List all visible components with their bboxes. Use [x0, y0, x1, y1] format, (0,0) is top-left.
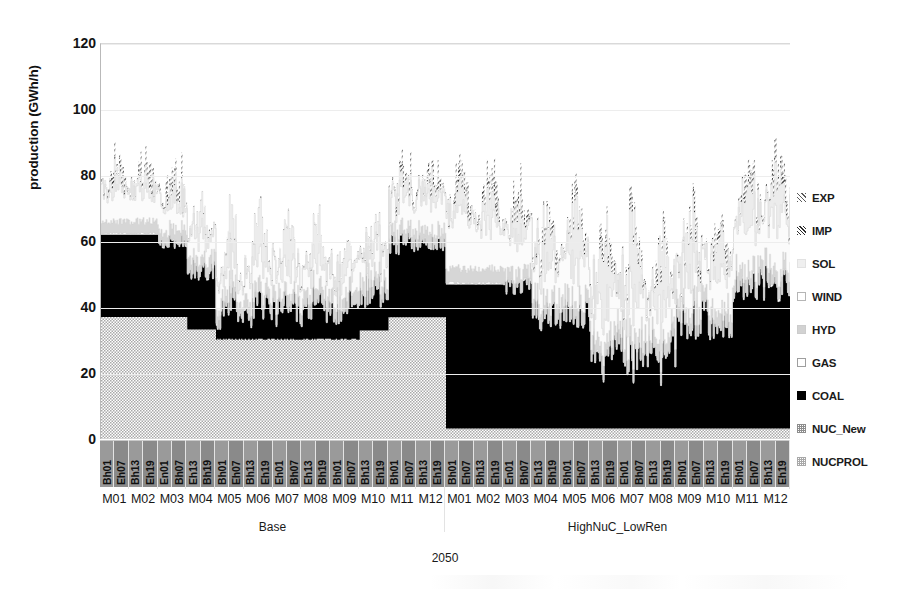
hour-tick-label: Bh13 [474, 460, 486, 485]
month-label-1-M01: M01 [445, 489, 474, 511]
hour-tick-label: Bh01 [733, 460, 745, 485]
hour-tick-0: Bh01 [100, 441, 114, 487]
legend-item-nucprol[interactable]: NUCPROL [797, 445, 897, 478]
hour-tick-25: Eh07 [459, 441, 473, 487]
hour-tick-21: Eh07 [402, 441, 416, 487]
legend-swatch-exp-icon [797, 193, 806, 202]
hour-tick-2: Bh13 [129, 441, 143, 487]
hour-tick-6: Eh13 [186, 441, 200, 487]
hour-tick-label: Bh01 [676, 460, 688, 485]
hour-tick-label: Bh01 [331, 460, 343, 485]
hour-tick-13: Bh07 [287, 441, 301, 487]
hour-tick-label: Bh13 [704, 460, 716, 485]
hour-tick-38: Eh13 [646, 441, 660, 487]
hour-tick-label: Eh07 [345, 461, 357, 485]
hour-tick-label: Bh19 [201, 460, 213, 485]
hour-tick-32: Bh01 [560, 441, 574, 487]
legend-item-wind[interactable]: WIND [797, 280, 897, 313]
hour-tick-label: Eh13 [187, 461, 199, 485]
hour-tick-3: Eh19 [143, 441, 157, 487]
gridline-80 [101, 176, 790, 177]
legend-label: NUC_New [812, 423, 866, 435]
hour-tick-label: Bh01 [388, 460, 400, 485]
hour-tick-label: Eh13 [532, 461, 544, 485]
hour-tick-17: Eh07 [344, 441, 358, 487]
month-label-1-M12: M12 [761, 489, 790, 511]
hour-tick-10: Bh13 [244, 441, 258, 487]
legend-label: IMP [812, 225, 832, 237]
hour-tick-26: Bh13 [474, 441, 488, 487]
y-tick-60: 60 [52, 234, 96, 248]
hour-tick-label: Eh19 [431, 461, 443, 485]
hour-tick-label: Eh19 [259, 461, 271, 485]
hour-tick-label: Bh13 [359, 460, 371, 485]
hour-tick-label: Bh13 [417, 460, 429, 485]
hour-tick-label: Bh01 [216, 460, 228, 485]
y-tick-80: 80 [52, 168, 96, 182]
hour-tick-label: Eh19 [719, 461, 731, 485]
hour-tick-1: Eh07 [114, 441, 128, 487]
legend-item-exp[interactable]: EXP [797, 181, 897, 214]
hour-tick-label: Eh07 [115, 461, 127, 485]
legend-swatch-gas-icon [797, 358, 806, 367]
hour-tick-label: Bh07 [288, 460, 300, 485]
legend-item-imp[interactable]: IMP [797, 214, 897, 247]
hour-tick-7: Bh19 [201, 441, 215, 487]
hour-tick-15: Bh19 [316, 441, 330, 487]
chart-plot-area [100, 43, 790, 439]
hour-tick-45: Eh07 [747, 441, 761, 487]
hour-tick-43: Eh19 [718, 441, 732, 487]
month-label-1-M02: M02 [474, 489, 503, 511]
month-label-1-M04: M04 [531, 489, 560, 511]
scenario-label-0: Base [100, 520, 445, 546]
hour-tick-label: Eh19 [144, 461, 156, 485]
y-tick-0: 0 [52, 432, 96, 446]
y-tick-100: 100 [52, 102, 96, 116]
legend-item-coal[interactable]: COAL [797, 379, 897, 412]
hour-tick-9: Eh07 [229, 441, 243, 487]
hour-tick-label: Bh19 [546, 460, 558, 485]
hour-tick-label: Eh13 [302, 461, 314, 485]
hour-tick-8: Bh01 [215, 441, 229, 487]
month-label-1-M05: M05 [560, 489, 589, 511]
hour-tick-22: Bh13 [416, 441, 430, 487]
legend-item-hyd[interactable]: HYD [797, 313, 897, 346]
hour-tick-label: Bh13 [762, 460, 774, 485]
hour-tick-label: Eh07 [230, 461, 242, 485]
hour-tick-12: Eh01 [273, 441, 287, 487]
month-label-0-M09: M09 [330, 489, 359, 511]
x-axis-month-row: M01M02M03M04M05M06M07M08M09M10M11M12M01M… [100, 489, 790, 511]
hour-tick-18: Bh13 [359, 441, 373, 487]
hour-tick-42: Bh13 [704, 441, 718, 487]
hour-tick-label: Bh07 [633, 460, 645, 485]
legend-swatch-wind-icon [797, 292, 806, 301]
month-label-1-M06: M06 [589, 489, 618, 511]
hour-tick-label: Eh07 [575, 461, 587, 485]
gridline-40 [101, 308, 790, 309]
x-axis-hour-band: Bh01Eh07Bh13Eh19En01Bh07Eh13Bh19Bh01Eh07… [100, 440, 790, 487]
legend-label: GAS [812, 357, 836, 369]
month-label-1-M03: M03 [503, 489, 532, 511]
hour-tick-label: Bh01 [446, 460, 458, 485]
month-label-1-M11: M11 [733, 489, 762, 511]
hour-tick-label: Bh07 [173, 460, 185, 485]
hour-tick-27: Eh19 [488, 441, 502, 487]
hour-tick-23: Eh19 [431, 441, 445, 487]
hour-tick-label: Eh19 [776, 461, 788, 485]
legend-item-sol[interactable]: SOL [797, 247, 897, 280]
chart-legend: EXPIMPSOLWINDHYDGASCOALNUC_NewNUCPROL [797, 181, 897, 478]
hour-tick-label: Bh19 [316, 460, 328, 485]
hour-tick-33: Eh07 [574, 441, 588, 487]
hour-tick-label: Bh19 [661, 460, 673, 485]
hour-tick-46: Bh13 [761, 441, 775, 487]
legend-item-gas[interactable]: GAS [797, 346, 897, 379]
legend-swatch-coal-icon [797, 391, 806, 400]
hour-tick-47: Eh19 [776, 441, 790, 487]
hour-tick-label: Eh07 [748, 461, 760, 485]
y-axis-title: production (GWh/h) [26, 18, 41, 238]
hour-tick-34: Bh13 [589, 441, 603, 487]
legend-label: HYD [812, 324, 836, 336]
hour-tick-24: Bh01 [445, 441, 459, 487]
legend-item-nuc_new[interactable]: NUC_New [797, 412, 897, 445]
hour-tick-label: En01 [503, 461, 515, 485]
